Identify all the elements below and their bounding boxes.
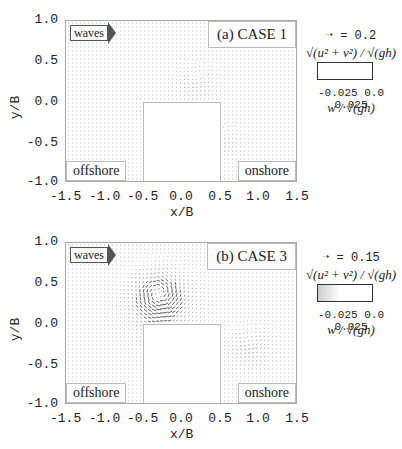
xtick: -1.5 xyxy=(50,189,80,204)
arrow-icon: ➝ xyxy=(326,29,333,43)
ytick: -1.0 xyxy=(18,396,58,411)
obstacle-block xyxy=(143,324,221,404)
case-title: (a) CASE 1 xyxy=(208,21,296,48)
colorbar xyxy=(317,284,373,302)
colorbar-label: w / √(gh) xyxy=(300,100,402,116)
vector-magnitude-label: √(u² + v²) / √(gh) xyxy=(300,45,402,61)
x-axis-label: x/B xyxy=(170,427,193,442)
ytick: 0.0 xyxy=(18,316,58,331)
xtick: 1.5 xyxy=(282,189,312,204)
xtick: 0.5 xyxy=(205,411,235,426)
ytick: 0.5 xyxy=(18,275,58,290)
reference-vector: = 0.2 xyxy=(340,29,376,43)
xtick: 1.0 xyxy=(243,411,273,426)
colorbar-label: w / √(gh) xyxy=(300,322,402,338)
offshore-label: offshore xyxy=(66,383,126,403)
panel-b: waves (b) CASE 3 offshore onshore 1.0 0.… xyxy=(0,222,402,446)
ytick: 1.0 xyxy=(18,12,58,27)
xtick: 0.0 xyxy=(166,411,196,426)
xtick: 1.5 xyxy=(282,411,312,426)
offshore-label: offshore xyxy=(66,161,126,181)
colorbar xyxy=(317,62,373,80)
ytick: -0.5 xyxy=(18,357,58,372)
xtick: 0.5 xyxy=(205,189,235,204)
onshore-label: onshore xyxy=(238,383,296,403)
panel-a: waves (a) CASE 1 offshore onshore 1.0 0.… xyxy=(0,0,402,224)
xtick: -1.5 xyxy=(50,411,80,426)
ytick: 0.0 xyxy=(18,94,58,109)
arrow-icon: ➝ xyxy=(322,251,329,265)
ytick: 1.0 xyxy=(18,234,58,249)
plot-area: waves (a) CASE 1 offshore onshore xyxy=(65,20,297,182)
xtick: 1.0 xyxy=(243,189,273,204)
ytick: -1.0 xyxy=(18,174,58,189)
xtick: -1.0 xyxy=(89,189,119,204)
waves-label: waves xyxy=(70,247,108,263)
waves-label: waves xyxy=(70,25,108,41)
legend: ➝ = 0.2 √(u² + v²) / √(gh) xyxy=(300,28,402,61)
xtick: 0.0 xyxy=(166,189,196,204)
xtick: -0.5 xyxy=(127,189,157,204)
y-axis-label: y/B xyxy=(8,318,23,341)
reference-vector: = 0.15 xyxy=(337,251,380,265)
x-axis-label: x/B xyxy=(170,205,193,220)
ytick: 0.5 xyxy=(18,53,58,68)
vector-magnitude-label: √(u² + v²) / √(gh) xyxy=(300,267,402,283)
ytick: -0.5 xyxy=(18,135,58,150)
legend: ➝ = 0.15 √(u² + v²) / √(gh) xyxy=(300,250,402,283)
plot-area: waves (b) CASE 3 offshore onshore xyxy=(65,242,297,404)
xtick: -1.0 xyxy=(89,411,119,426)
onshore-label: onshore xyxy=(238,161,296,181)
case-title: (b) CASE 3 xyxy=(207,243,296,270)
y-axis-label: y/B xyxy=(8,96,23,119)
xtick: -0.5 xyxy=(127,411,157,426)
obstacle-block xyxy=(143,102,221,182)
